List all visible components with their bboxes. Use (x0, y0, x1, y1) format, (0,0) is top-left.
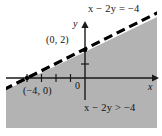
inequality-region-label: x − 2y > −4 (84, 103, 135, 114)
origin-label: 0 (75, 81, 80, 91)
graph-canvas (0, 0, 162, 136)
inequality-graph-figure: x − 2y = −4 x − 2y > −4 (0, 2) (−4, 0) x… (0, 0, 162, 136)
point-label-x-intercept: (−4, 0) (23, 86, 52, 96)
point-label-y-intercept: (0, 2) (46, 35, 69, 45)
x-axis-label: x (148, 82, 153, 92)
y-axis-label: y (73, 19, 78, 29)
boundary-line-equation-label: x − 2y = −4 (88, 4, 139, 15)
